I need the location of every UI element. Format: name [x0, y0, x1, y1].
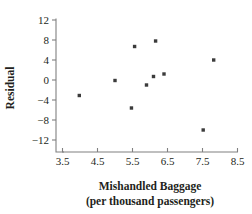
data-point	[113, 79, 116, 82]
data-point	[78, 94, 81, 97]
data-point	[133, 45, 136, 48]
data-point	[145, 83, 148, 86]
scatter-plot-figure: 12840−4−8−12 3.54.55.56.57.58.5 Mishandl…	[0, 0, 252, 214]
data-point	[202, 128, 205, 131]
y-tick-label: 4	[44, 54, 50, 66]
y-tick-label: −8	[37, 114, 49, 126]
y-tick-label: −4	[37, 94, 49, 106]
data-point	[130, 106, 133, 109]
data-point	[154, 39, 157, 42]
x-tick-label: 3.5	[56, 155, 70, 167]
x-axis: 3.54.55.56.57.58.5	[56, 148, 245, 167]
y-tick-label: −12	[32, 134, 49, 146]
data-points-layer	[78, 39, 216, 131]
y-tick-label: 0	[44, 74, 50, 86]
x-tick-label: 6.5	[161, 155, 175, 167]
data-point	[162, 72, 165, 75]
plot-canvas: 12840−4−8−12 3.54.55.56.57.58.5 Mishandl…	[0, 0, 252, 214]
data-point	[212, 58, 215, 61]
x-tick-label: 8.5	[231, 155, 245, 167]
x-axis-title-line1: Mishandled Baggage	[99, 180, 202, 193]
y-axis-title: Residual	[4, 67, 16, 110]
x-axis-title-line2: (per thousand passengers)	[86, 195, 214, 208]
y-tick-label: 12	[38, 14, 49, 26]
x-tick-label: 4.5	[91, 155, 105, 167]
y-tick-label: 8	[44, 34, 50, 46]
x-tick-label: 7.5	[196, 155, 210, 167]
data-point	[152, 75, 155, 78]
y-axis: 12840−4−8−12	[32, 14, 64, 152]
x-tick-label: 5.5	[126, 155, 140, 167]
